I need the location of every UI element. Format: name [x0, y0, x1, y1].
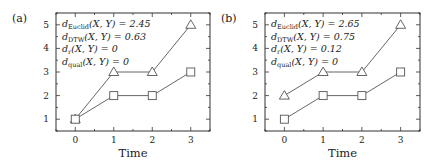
triangle-marker [186, 20, 196, 29]
square-marker [110, 92, 118, 100]
panel-a: 012312345dEuclid(X, Y) = 2.45dDTW(X, Y) … [12, 12, 210, 160]
x-tick-label: 1 [111, 135, 117, 145]
y-tick-label: 2 [252, 91, 258, 101]
square-marker [71, 115, 79, 123]
metric-annotation: dqual(X, Y) = 0 [62, 56, 129, 69]
metric-annotation: dqual(X, Y) = 0 [271, 56, 338, 69]
x-tick-label: 3 [188, 135, 194, 145]
x-tick-label: 1 [320, 135, 326, 145]
triangle-marker [109, 67, 119, 76]
metric-annotation: dEuclid(X, Y) = 2.65 [271, 18, 360, 31]
x-axis-label: Time [328, 146, 357, 160]
square-marker [148, 92, 156, 100]
series-line [284, 72, 400, 119]
metric-annotation: dr(X, Y) = 0 [62, 43, 118, 56]
x-tick-label: 3 [398, 135, 404, 145]
panel-label: (a) [12, 12, 27, 25]
metric-annotation: dr(X, Y) = 0.12 [271, 43, 342, 56]
triangle-marker [396, 20, 406, 29]
triangle-marker [279, 91, 289, 100]
y-tick-label: 4 [252, 43, 258, 53]
triangle-marker [318, 67, 328, 76]
square-marker [280, 115, 288, 123]
square-marker [319, 92, 327, 100]
y-tick-label: 1 [43, 114, 49, 124]
x-tick-label: 0 [72, 135, 78, 145]
x-axis-label: Time [118, 146, 147, 160]
y-tick-label: 5 [43, 20, 49, 30]
square-marker [187, 68, 195, 76]
metric-annotation: dDTW(X, Y) = 0.75 [271, 31, 355, 44]
figure: 012312345dEuclid(X, Y) = 2.45dDTW(X, Y) … [0, 0, 435, 167]
panel-label: (b) [221, 12, 237, 25]
y-tick-label: 3 [252, 67, 258, 77]
x-tick-label: 2 [359, 135, 365, 145]
y-tick-label: 4 [43, 43, 49, 53]
x-tick-label: 2 [149, 135, 155, 145]
x-tick-label: 0 [282, 135, 288, 145]
square-marker [397, 68, 405, 76]
metric-annotation: dDTW(X, Y) = 0.63 [62, 31, 146, 44]
panel-b: 012312345dEuclid(X, Y) = 2.65dDTW(X, Y) … [221, 12, 420, 160]
series-line [75, 72, 191, 119]
square-marker [358, 92, 366, 100]
y-tick-label: 1 [252, 114, 258, 124]
y-tick-label: 2 [43, 91, 49, 101]
y-tick-label: 3 [43, 67, 49, 77]
y-tick-label: 5 [252, 20, 258, 30]
metric-annotation: dEuclid(X, Y) = 2.45 [62, 18, 151, 31]
